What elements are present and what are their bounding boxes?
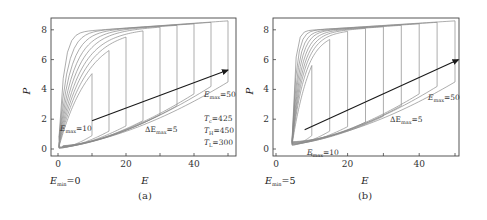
- hysteresis-loop: [292, 24, 419, 143]
- x-tick-label: 0: [273, 159, 279, 169]
- caption-b: (b): [358, 190, 372, 201]
- hysteresis-loop: [292, 28, 365, 144]
- hysteresis-loop: [292, 39, 330, 144]
- annotation-delta-emax-a: ΔEmax=5: [145, 125, 178, 135]
- annotation-emax50-b: Emax=50: [427, 93, 460, 103]
- annotation-emax10-a: Emax=10: [59, 124, 92, 134]
- emin-label-a: Emin=0: [49, 175, 81, 187]
- x-axis-label-b: E: [360, 175, 369, 186]
- annotation-tl: TL=300: [204, 138, 233, 148]
- annotation-emax10-b: Emax=10: [306, 148, 339, 158]
- annotation-delta-emax-b: ΔEmax=5: [390, 115, 423, 125]
- y-tick-label: 6: [41, 55, 47, 65]
- y-tick-label: 0: [41, 144, 47, 154]
- y-tick-label: 4: [41, 84, 47, 94]
- x-tick-label: 40: [413, 159, 425, 169]
- x-tick-label: 0: [55, 159, 61, 169]
- y-tick-label: 2: [41, 114, 47, 124]
- x-tick-label: 20: [342, 159, 354, 169]
- y-axis-label-b: P: [244, 87, 255, 95]
- y-tick-label: 6: [263, 55, 269, 65]
- annotation-emax50-a: Emax=50: [203, 90, 236, 100]
- hysteresis-loop: [292, 25, 401, 143]
- y-tick-label: 4: [263, 84, 269, 94]
- emin-label-b: Emin=5: [264, 175, 296, 187]
- annotation-tc: Tc=425: [204, 114, 233, 124]
- y-tick-label: 8: [41, 25, 47, 35]
- y-tick-label: 2: [263, 114, 269, 124]
- y-tick-label: 8: [263, 25, 269, 35]
- hysteresis-loop: [292, 21, 455, 142]
- axis-ticks-b: 0246802040: [263, 25, 455, 169]
- y-axis-label-a: P: [21, 87, 32, 95]
- x-tick-label: 20: [120, 159, 132, 169]
- panel-a: 0246802040 P E Emin=0 Emax=10 Emax=50 ΔE…: [21, 18, 236, 201]
- x-axis-label-a: E: [140, 175, 149, 186]
- x-tick-label: 40: [188, 159, 200, 169]
- caption-a: (a): [138, 190, 152, 201]
- y-tick-label: 0: [263, 144, 269, 154]
- hysteresis-curves-b: [292, 21, 455, 145]
- plot-frame-b: [273, 18, 459, 156]
- figure: 0246802040 P E Emin=0 Emax=10 Emax=50 ΔE…: [0, 0, 487, 220]
- annotation-th: TH=450: [204, 126, 234, 136]
- panel-b: 0246802040 P E Emin=5 Emax=10 Emax=50 ΔE…: [244, 18, 460, 201]
- hysteresis-loop: [292, 27, 383, 144]
